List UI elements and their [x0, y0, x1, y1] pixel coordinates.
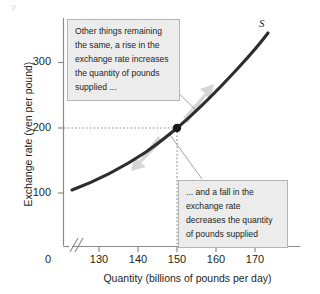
- x-tick-label-150: 150: [160, 253, 194, 265]
- x-tick-label-170: 170: [238, 253, 272, 265]
- y-axis-ticks: [58, 63, 64, 194]
- marked-point: [173, 124, 181, 132]
- leader-line-supply-fall: [170, 135, 202, 179]
- annotation-line: decreases the quantity: [186, 214, 281, 228]
- annotation-line: exchange rate: [186, 200, 281, 214]
- origin-label-0: 0: [40, 253, 56, 265]
- x-tick-label-140: 140: [121, 253, 155, 265]
- x-tick-label-130: 130: [82, 253, 116, 265]
- supply-curve-label: S: [259, 17, 265, 29]
- annotation-line: the same, a rise in the: [75, 39, 173, 53]
- annotation-line: the quantity of pounds: [75, 67, 173, 81]
- x-tick-label-160: 160: [199, 253, 233, 265]
- y-axis-title: Exchange rate (yen per pound): [22, 44, 34, 224]
- x-axis-title: Quantity (billions of pounds per day): [60, 272, 315, 284]
- annotation-line: supplied ...: [75, 81, 173, 95]
- annotation-supply-fall: ... and a fall in the exchange rate decr…: [178, 180, 288, 248]
- annotation-line: ... and a fall in the: [186, 186, 281, 200]
- annotation-line: exchange rate increases: [75, 53, 173, 67]
- supply-curve-figure: p: [0, 0, 320, 294]
- annotation-line: Other things remaining: [75, 25, 173, 39]
- annotation-line: of pounds supplied: [186, 228, 281, 242]
- annotation-supply-rise: Other things remaining the same, a rise …: [67, 19, 180, 101]
